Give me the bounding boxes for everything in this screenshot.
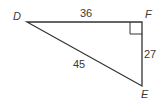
triangle-def bbox=[27, 22, 142, 86]
vertex-label-e: E bbox=[141, 88, 149, 100]
side-label-fe: 27 bbox=[144, 48, 156, 60]
side-label-df: 36 bbox=[80, 7, 92, 19]
triangle-diagram: D F E 36 27 45 bbox=[0, 0, 167, 108]
vertex-label-f: F bbox=[145, 8, 153, 20]
vertex-label-d: D bbox=[13, 10, 21, 22]
side-label-de: 45 bbox=[73, 58, 85, 70]
right-angle-marker bbox=[130, 22, 142, 34]
